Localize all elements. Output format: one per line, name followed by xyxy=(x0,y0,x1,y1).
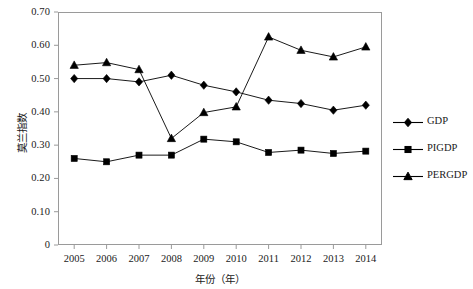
axis-ticks xyxy=(54,12,366,249)
data-point-marker xyxy=(135,78,142,86)
data-point-marker xyxy=(264,33,272,41)
data-point-marker xyxy=(104,159,110,165)
data-point-marker xyxy=(200,81,207,89)
chart-container: 0.700.600.500.400.300.200.100 2005200620… xyxy=(0,0,473,289)
y-tick-label: 0.10 xyxy=(6,207,50,218)
data-point-marker xyxy=(362,43,370,51)
legend-label: PERGDP xyxy=(427,169,467,181)
legend-item-gdp[interactable]: GDP xyxy=(392,112,472,139)
data-point-marker xyxy=(102,58,110,66)
data-point-marker xyxy=(362,101,369,109)
y-tick-label: 0 xyxy=(6,240,50,251)
data-point-marker xyxy=(266,149,272,155)
series-line xyxy=(74,139,366,162)
data-point-marker xyxy=(103,74,110,82)
diamond-marker-icon xyxy=(392,116,424,129)
data-point-marker xyxy=(167,134,175,142)
x-tick-label: 2014 xyxy=(346,254,386,265)
data-point-marker xyxy=(201,136,207,142)
series-pergdp xyxy=(70,33,370,142)
series-line xyxy=(74,75,366,110)
data-point-marker xyxy=(233,88,240,96)
y-tick-label: 0.20 xyxy=(6,173,50,184)
legend-item-pergdp[interactable]: PERGDP xyxy=(392,166,472,193)
data-point-marker xyxy=(71,155,77,161)
y-axis-title: 莫兰指数 xyxy=(14,113,29,153)
data-point-marker xyxy=(363,148,369,154)
data-point-marker xyxy=(298,147,304,153)
series-gdp xyxy=(71,71,370,114)
legend-label: PIGDP xyxy=(427,142,457,154)
data-point-marker xyxy=(330,106,337,114)
data-series-layer xyxy=(70,33,370,165)
data-point-marker xyxy=(168,71,175,79)
y-tick-label: 0.70 xyxy=(6,7,50,18)
data-point-marker xyxy=(232,102,240,110)
data-point-marker xyxy=(330,150,336,156)
series-pigdp xyxy=(71,136,369,165)
legend-item-pigdp[interactable]: PIGDP xyxy=(392,139,472,166)
series-line xyxy=(74,37,366,139)
triangle-marker-icon xyxy=(392,170,424,183)
chart-legend: GDPPIGDPPERGDP xyxy=(392,112,472,193)
legend-label: GDP xyxy=(427,115,448,127)
square-marker-icon xyxy=(392,143,424,156)
y-tick-label: 0.60 xyxy=(6,40,50,51)
x-axis-title: 年份（年） xyxy=(145,271,295,286)
y-tick-label: 0.50 xyxy=(6,74,50,85)
data-point-marker xyxy=(168,152,174,158)
data-point-marker xyxy=(265,96,272,104)
data-point-marker xyxy=(233,139,239,145)
data-point-marker xyxy=(71,74,78,82)
data-point-marker xyxy=(136,152,142,158)
data-point-marker xyxy=(297,99,304,107)
data-point-marker xyxy=(297,46,305,54)
